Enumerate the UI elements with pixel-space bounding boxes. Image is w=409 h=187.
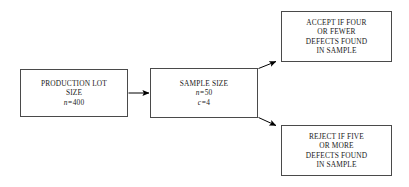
node-reject-outcome-line-1: REJECT IF FIVE bbox=[309, 132, 364, 141]
node-production-lot-line-2: SIZE bbox=[66, 88, 82, 97]
edge-sample-to-reject bbox=[259, 118, 277, 126]
node-sample-size-variable-n: n=50 bbox=[196, 88, 213, 97]
edge-sample-to-accept bbox=[259, 62, 277, 69]
node-accept-outcome-line-3: DEFECTS FOUND bbox=[306, 37, 367, 46]
node-accept-outcome: ACCEPT IF FOUR OR FEWER DEFECTS FOUND IN… bbox=[281, 11, 392, 62]
node-sample-size-variable-c: c=4 bbox=[198, 98, 210, 107]
node-production-lot-variable-n: n=400 bbox=[64, 98, 85, 107]
node-reject-outcome-line-4: IN SAMPLE bbox=[316, 160, 356, 169]
node-accept-outcome-line-4: IN SAMPLE bbox=[316, 46, 356, 55]
node-accept-outcome-line-1: ACCEPT IF FOUR bbox=[306, 18, 366, 27]
node-production-lot: PRODUCTION LOT SIZE n=400 bbox=[20, 69, 128, 117]
node-production-lot-line-1: PRODUCTION LOT bbox=[41, 79, 107, 88]
node-reject-outcome-line-3: DEFECTS FOUND bbox=[306, 151, 367, 160]
node-reject-outcome: REJECT IF FIVE OR MORE DEFECTS FOUND IN … bbox=[281, 125, 392, 176]
node-accept-outcome-line-2: OR FEWER bbox=[317, 27, 355, 36]
node-sample-size: SAMPLE SIZE n=50 c=4 bbox=[150, 68, 258, 118]
flowchart-canvas: PRODUCTION LOT SIZE n=400 SAMPLE SIZE n=… bbox=[0, 0, 409, 187]
node-sample-size-line-1: SAMPLE SIZE bbox=[180, 79, 228, 88]
node-reject-outcome-line-2: OR MORE bbox=[319, 141, 354, 150]
